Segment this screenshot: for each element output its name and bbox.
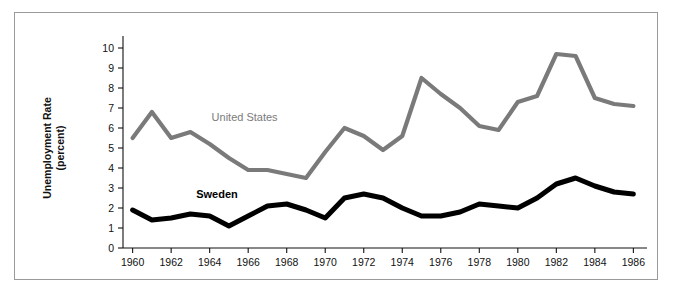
series-label-sweden: Sweden [196,188,238,200]
x-axis-tick-label: 1970 [314,256,338,268]
y-axis-tick-label: 3 [108,182,114,194]
figure-container: 0123456789101960196219641966196819701972… [0,0,674,295]
y-axis-tick-label: 5 [108,142,114,154]
line-chart: 0123456789101960196219641966196819701972… [15,13,657,279]
y-axis-tick-label: 4 [108,162,114,174]
y-axis-tick-label: 8 [108,82,114,94]
y-axis-tick-label: 0 [108,242,114,254]
series-label-united-states: United States [212,111,279,123]
x-axis-tick-label: 1980 [506,256,530,268]
x-axis-tick-label: 1978 [468,256,492,268]
x-axis-tick-label: 1964 [198,256,222,268]
y-axis-tick-label: 2 [108,202,114,214]
x-axis-tick-label: 1974 [391,256,415,268]
series-line-united-states [133,54,634,178]
x-axis-tick-label: 1968 [275,256,299,268]
x-axis-tick-label: 1962 [159,256,183,268]
x-axis-tick-label: 1984 [583,256,607,268]
y-axis-tick-label: 9 [108,62,114,74]
x-axis-tick-label: 1982 [545,256,569,268]
x-axis-tick-label: 1986 [622,256,646,268]
x-axis-tick-label: 1960 [121,256,145,268]
x-axis-tick-label: 1966 [237,256,261,268]
y-axis-tick-label: 10 [102,42,114,54]
y-axis-title-line1: Unemployment Rate [41,97,53,199]
x-axis-tick-label: 1972 [352,256,376,268]
y-axis-tick-label: 7 [108,102,114,114]
series-line-sweden [133,178,634,226]
chart-frame: 0123456789101960196219641966196819701972… [14,12,658,280]
y-axis-tick-label: 1 [108,222,114,234]
y-axis-tick-label: 6 [108,122,114,134]
y-axis-title-line2: (percent) [54,126,66,171]
x-axis-tick-label: 1976 [429,256,453,268]
